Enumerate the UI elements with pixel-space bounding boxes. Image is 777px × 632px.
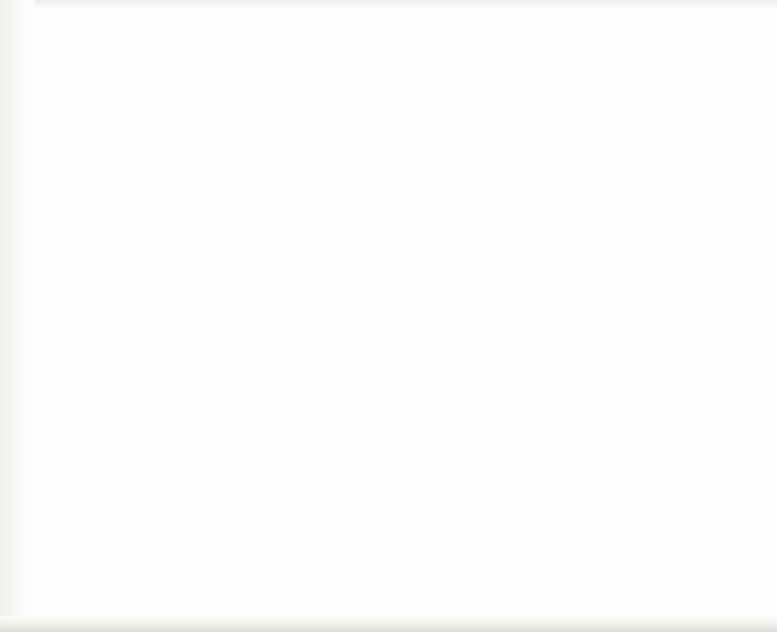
figure-panel xyxy=(0,0,777,632)
chart-canvas xyxy=(0,0,777,632)
